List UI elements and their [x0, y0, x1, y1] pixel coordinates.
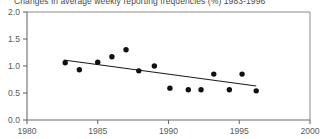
y-tick-label: 1.0: [8, 61, 20, 71]
x-tick-label: 2000: [300, 126, 319, 136]
data-point: [254, 88, 259, 93]
x-tick-label: 1980: [17, 126, 36, 136]
data-point: [186, 87, 191, 92]
y-tick-label: 2.0: [8, 7, 20, 17]
y-axis-ticks: 0.00.51.01.52.0: [8, 7, 27, 125]
chart-screenshot: Changes in average weekly reporting freq…: [0, 0, 330, 139]
trend-line-group: [64, 60, 256, 86]
x-tick-label: 1995: [230, 126, 249, 136]
data-point: [227, 87, 232, 92]
x-tick-label: 1990: [159, 126, 178, 136]
data-point: [211, 71, 216, 76]
scatter-plot: 0.00.51.01.52.0 19801985199019952000: [0, 0, 330, 139]
plot-frame: [27, 12, 310, 120]
data-points-group: [63, 47, 259, 93]
data-point: [123, 47, 128, 52]
y-tick-label: 0.5: [8, 88, 20, 98]
data-point: [198, 87, 203, 92]
data-point: [239, 71, 244, 76]
data-point: [152, 63, 157, 68]
x-axis-ticks: 19801985199019952000: [17, 120, 319, 136]
trend-line: [64, 60, 256, 86]
x-tick-label: 1985: [88, 126, 107, 136]
plot-frame-border: [27, 12, 310, 120]
data-point: [77, 67, 82, 72]
y-tick-label: 0.0: [8, 115, 20, 125]
y-tick-label: 1.5: [8, 34, 20, 44]
data-point: [109, 54, 114, 59]
data-point: [136, 68, 141, 73]
data-point: [95, 60, 100, 65]
data-point: [167, 85, 172, 90]
data-point: [63, 60, 68, 65]
